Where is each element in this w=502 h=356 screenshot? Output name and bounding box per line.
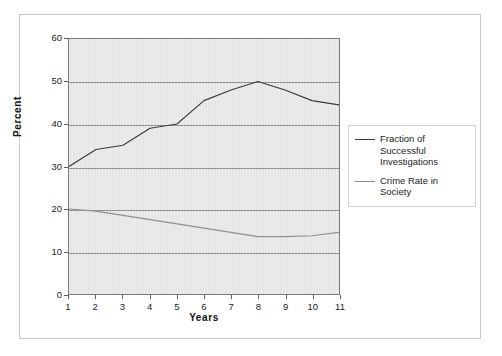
y-tick-mark <box>64 209 68 210</box>
y-tick-mark <box>64 81 68 82</box>
x-tick-mark <box>340 295 341 299</box>
x-tick-label: 1 <box>57 302 79 312</box>
legend-label: Fraction of Successful Investigations <box>380 133 471 168</box>
legend-item[interactable]: Fraction of Successful Investigations <box>353 133 471 168</box>
y-tick-label: 10 <box>22 247 62 257</box>
x-tick-label: 3 <box>111 302 133 312</box>
x-tick-mark <box>286 295 287 299</box>
y-tick-label: 0 <box>22 290 62 300</box>
x-tick-mark <box>258 295 259 299</box>
y-tick-mark <box>64 38 68 39</box>
x-tick-mark <box>204 295 205 299</box>
y-tick-label: 30 <box>22 162 62 172</box>
y-tick-label: 60 <box>22 33 62 43</box>
x-tick-mark <box>231 295 232 299</box>
x-tick-label: 11 <box>329 302 351 312</box>
x-tick-label: 4 <box>139 302 161 312</box>
y-tick-label: 40 <box>22 119 62 129</box>
y-tick-label: 50 <box>22 76 62 86</box>
x-tick-mark <box>150 295 151 299</box>
x-tick-label: 5 <box>166 302 188 312</box>
series-layer <box>69 39 339 294</box>
x-tick-label: 2 <box>84 302 106 312</box>
x-tick-mark <box>177 295 178 299</box>
x-tick-mark <box>122 295 123 299</box>
x-tick-label: 6 <box>193 302 215 312</box>
x-tick-mark <box>95 295 96 299</box>
legend-line-icon <box>355 135 375 144</box>
x-tick-mark <box>68 295 69 299</box>
y-tick-label: 20 <box>22 204 62 214</box>
chart-figure: Percent 0102030405060 1234567891011 Year… <box>19 14 481 339</box>
x-tick-mark <box>313 295 314 299</box>
y-tick-mark <box>64 124 68 125</box>
series-line <box>69 209 339 237</box>
y-tick-mark <box>64 167 68 168</box>
y-tick-mark <box>64 252 68 253</box>
x-axis-label: Years <box>68 312 340 323</box>
x-tick-label: 8 <box>247 302 269 312</box>
x-tick-label: 7 <box>220 302 242 312</box>
chart-legend: Fraction of Successful InvestigationsCri… <box>348 125 476 207</box>
legend-line-icon <box>355 177 375 186</box>
y-axis-label: Percent <box>12 96 23 137</box>
series-line <box>69 81 339 166</box>
x-tick-label: 10 <box>302 302 324 312</box>
legend-item[interactable]: Crime Rate in Society <box>353 175 471 198</box>
plot-area <box>68 38 340 295</box>
x-tick-label: 9 <box>275 302 297 312</box>
legend-label: Crime Rate in Society <box>380 175 471 198</box>
